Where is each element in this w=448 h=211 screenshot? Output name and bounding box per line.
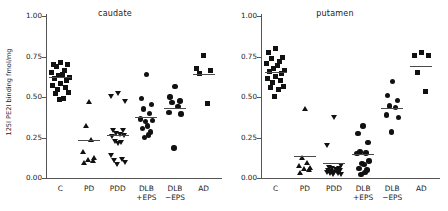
data-point [389, 129, 394, 134]
data-point [149, 102, 154, 107]
data-point [324, 143, 330, 148]
data-point [412, 53, 417, 58]
data-point [360, 123, 365, 128]
data-point [358, 172, 363, 177]
data-point [331, 115, 337, 120]
data-point [415, 70, 420, 75]
y-tick [42, 178, 46, 179]
mean-line [49, 77, 71, 78]
y-tick [42, 16, 46, 17]
data-point [330, 172, 336, 177]
data-point [366, 158, 371, 163]
data-point [145, 123, 150, 128]
data-point [57, 97, 62, 102]
data-point [276, 87, 281, 92]
y-tick [257, 138, 261, 139]
data-point [423, 89, 428, 94]
panel-putamen: putamen 0.000.250.500.751.00CPDPDDDLB +E… [224, 0, 448, 211]
data-point [90, 158, 96, 163]
data-point [268, 85, 273, 90]
data-point [390, 79, 395, 84]
y-tick [257, 57, 261, 58]
data-point [81, 160, 87, 165]
data-point [65, 62, 70, 67]
data-point [281, 84, 286, 89]
data-point [140, 126, 145, 131]
mean-line [265, 72, 287, 73]
data-point [264, 61, 269, 66]
data-point [395, 98, 400, 103]
y-tick [257, 16, 261, 17]
data-point [147, 111, 152, 116]
y-tick-label: 0.00 [231, 174, 257, 181]
data-point [64, 78, 69, 83]
y-tick [42, 57, 46, 58]
data-point [355, 131, 360, 136]
data-point [278, 78, 283, 83]
data-point [166, 110, 171, 115]
data-point [178, 111, 183, 116]
y-axis-label: 125I PE2I binding fmol/mg [5, 17, 13, 167]
data-point [385, 93, 390, 98]
mean-line [78, 140, 100, 141]
x-axis-line [46, 178, 222, 179]
mean-line [193, 74, 215, 75]
data-point [139, 96, 144, 101]
data-point [141, 106, 146, 111]
data-point [270, 80, 275, 85]
mean-line [294, 156, 316, 157]
data-point [426, 53, 431, 58]
data-point [86, 99, 92, 104]
mean-line [410, 66, 432, 67]
data-point [171, 145, 176, 150]
x-axis-line [261, 178, 440, 179]
y-tick [257, 178, 261, 179]
y-axis-line [46, 14, 47, 179]
data-point [269, 56, 274, 61]
x-tick-label-ad: AD [182, 184, 226, 193]
data-point [205, 101, 210, 106]
y-tick [42, 138, 46, 139]
y-tick-label: 0.50 [231, 93, 257, 100]
data-point [49, 70, 54, 75]
panel-caudate: 125I PE2I binding fmol/mg caudate 0.000.… [0, 0, 224, 211]
data-point [356, 166, 361, 171]
data-point [419, 50, 424, 55]
data-point [306, 167, 312, 172]
data-point [108, 94, 114, 99]
y-tick [42, 97, 46, 98]
data-point [80, 149, 86, 154]
data-point [114, 162, 120, 167]
data-point [66, 90, 71, 95]
data-point [177, 98, 182, 103]
data-point [272, 94, 277, 99]
x-tick-label-ad: AD [399, 184, 443, 193]
data-point [83, 123, 89, 128]
data-point [266, 50, 271, 55]
data-point [384, 112, 389, 117]
y-tick-label: 1.00 [16, 12, 42, 19]
y-axis-line [261, 14, 262, 179]
mean-line [164, 108, 186, 109]
mean-line [381, 108, 403, 109]
data-point [122, 99, 128, 104]
y-tick-label: 0.25 [16, 134, 42, 141]
mean-line [135, 117, 157, 118]
y-tick-label: 0.00 [16, 174, 42, 181]
data-point [115, 91, 121, 96]
mean-line [323, 163, 345, 164]
data-point [365, 140, 370, 145]
data-point [361, 162, 366, 167]
y-tick-label: 1.00 [231, 12, 257, 19]
data-point [396, 115, 401, 120]
data-point [297, 170, 303, 175]
y-tick-label: 0.75 [231, 53, 257, 60]
data-point [144, 72, 149, 77]
data-point [150, 118, 155, 123]
mean-line [352, 154, 374, 155]
mean-line [107, 135, 129, 136]
data-point [54, 64, 59, 69]
y-tick-label: 0.75 [16, 53, 42, 60]
figure-scatter-binding: 125I PE2I binding fmol/mg caudate 0.000.… [0, 0, 448, 211]
data-point [53, 91, 58, 96]
